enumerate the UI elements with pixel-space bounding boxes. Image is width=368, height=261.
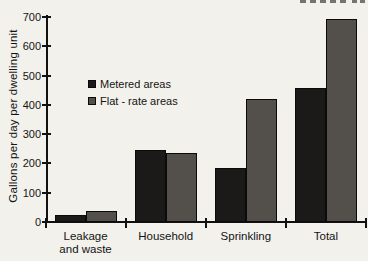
- y-tick-mark: [42, 16, 51, 18]
- chart-legend: Metered areas Flat - rate areas: [88, 75, 178, 109]
- y-tick-mark: [42, 104, 51, 106]
- y-tick-label: 0: [10, 216, 41, 228]
- y-tick-label: 200: [10, 157, 41, 169]
- y-tick-label: 500: [10, 70, 41, 82]
- flat-rate-bar-2: [246, 99, 277, 222]
- flat-rate-bar-3: [326, 19, 357, 222]
- y-tick-mark: [42, 221, 51, 223]
- clipped-text-fragment: [300, 0, 346, 3]
- y-tick-label: 100: [10, 187, 41, 199]
- y-tick-mark: [42, 45, 51, 47]
- clipped-text-fragment: [352, 0, 366, 3]
- legend-item-flat-rate: Flat - rate areas: [88, 92, 178, 109]
- y-tick-mark: [42, 162, 51, 164]
- x-tick-mark: [365, 218, 367, 228]
- y-tick-mark: [42, 133, 51, 135]
- y-tick-mark: [42, 192, 51, 194]
- x-category-label: Household: [124, 230, 208, 243]
- legend-label: Metered areas: [100, 78, 171, 90]
- x-category-label: Sprinkling: [204, 230, 288, 243]
- legend-label: Flat - rate areas: [100, 95, 178, 107]
- scanned-bar-chart-page: Gallons per day per dwelling unit Metere…: [0, 0, 368, 261]
- metered-bar-3: [295, 88, 326, 222]
- metered-swatch-icon: [88, 80, 96, 88]
- y-tick-label: 700: [10, 11, 41, 23]
- y-axis-title: Gallons per day per dwelling unit: [7, 29, 19, 202]
- metered-bar-0: [55, 215, 86, 222]
- x-category-label: Total: [284, 230, 368, 243]
- flat-rate-bar-1: [166, 153, 197, 222]
- y-tick-mark: [42, 75, 51, 77]
- x-tick-mark: [45, 218, 47, 228]
- x-category-label: Leakageand waste: [44, 230, 128, 256]
- metered-bar-2: [215, 168, 246, 222]
- y-tick-label: 400: [10, 99, 41, 111]
- flat-rate-bar-0: [86, 211, 117, 222]
- x-tick-mark: [205, 218, 207, 228]
- y-tick-label: 600: [10, 40, 41, 52]
- x-tick-mark: [285, 218, 287, 228]
- flat-rate-swatch-icon: [88, 97, 96, 105]
- legend-item-metered: Metered areas: [88, 75, 178, 92]
- y-tick-label: 300: [10, 128, 41, 140]
- x-tick-mark: [125, 218, 127, 228]
- metered-bar-1: [135, 150, 166, 222]
